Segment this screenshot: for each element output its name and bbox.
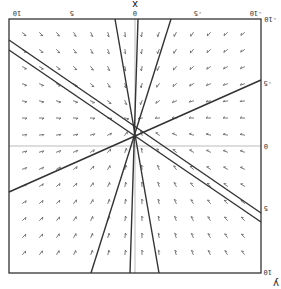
arrowhead-icon [206,150,208,151]
x-axis-title: x [132,0,138,10]
arrowhead-icon [109,250,110,252]
arrow-icon [73,101,78,102]
arrow-icon [125,199,126,204]
arrowhead-icon [126,165,127,167]
arrowhead-icon [173,166,175,167]
arrow-icon [56,217,59,221]
y-tick-label: 0 [264,142,268,150]
arrowhead-icon [126,148,127,150]
arrowhead-icon [189,133,191,134]
arrow-icon [141,100,143,105]
arrowhead-icon [206,133,208,134]
arrowhead-icon [24,85,26,86]
arrow-icon [22,32,26,35]
y-tick-labels: -10 -5 0 5 10 [264,15,277,276]
arrow-icon [174,66,177,70]
arrowhead-icon [140,102,141,104]
arrow-icon [157,66,159,71]
arrowhead-icon [127,119,129,120]
arrow-icon [108,199,110,204]
vector-field-plot: 10 5 0 -5 -10 x -10 -5 0 5 10 y [0,0,281,289]
arrow-icon [73,217,76,221]
arrow-icon [172,134,177,136]
arrow-icon [125,148,126,153]
arrow-icon [22,67,27,69]
arrowhead-icon [140,69,141,71]
arrow-icon [207,167,211,170]
x-tick-label: 5 [70,9,74,17]
arrow-icon [107,100,111,103]
arrowhead-icon [75,102,77,103]
arrowhead-icon [174,34,175,36]
arrow-icon [124,132,127,136]
arrowhead-icon [110,182,111,184]
arrow-icon [189,134,194,135]
x-tick-label: -10 [250,9,263,17]
arrowhead-icon [109,233,110,235]
arrow-icon [56,251,59,255]
arrowhead-icon [140,86,141,88]
arrowhead-icon [24,69,26,70]
arrow-icon [39,67,43,69]
x-tick-label: 10 [13,9,21,17]
arrowhead-icon [109,199,110,201]
arrowhead-icon [92,250,93,252]
arrow-icon [91,199,93,203]
arrow-icon [158,49,160,54]
y-tick-label: 10 [264,268,272,276]
arrow-icon [141,66,142,71]
arrowhead-icon [157,35,158,37]
arrowhead-icon [240,150,242,151]
arrow-icon [141,83,142,88]
arrow-icon [125,182,126,187]
arrowhead-icon [190,183,192,184]
arrow-icon [224,184,228,187]
arrow-icon [91,250,93,255]
arrow-icon [91,216,93,221]
arrow-icon [108,165,110,169]
arrowhead-icon [42,102,44,103]
arrow-icon [156,133,160,136]
arrow-icon [189,150,193,152]
y-tick-label: -5 [264,79,272,87]
arrowhead-icon [74,52,76,53]
arrow-icon [73,200,76,204]
arrowhead-icon [172,133,174,134]
arrow-icon [206,134,211,135]
arrowhead-icon [240,167,242,168]
arrow-icon [223,167,227,169]
x-tick-label: -5 [194,9,202,17]
arrow-icon [91,233,93,238]
arrow-icon [191,32,194,36]
arrowhead-icon [92,233,93,235]
arrowhead-icon [59,102,61,103]
arrow-icon [56,101,61,102]
arrow-icon [22,101,27,102]
arrow-icon [174,49,177,53]
arrowhead-icon [240,133,242,134]
arrow-icon [39,84,44,86]
arrow-icon [240,151,245,152]
arrowhead-icon [223,133,225,134]
arrowhead-icon [223,150,225,151]
arrow-icon [108,233,109,238]
arrow-icon [223,134,228,135]
arrowhead-icon [41,85,43,86]
arrowhead-icon [42,200,43,202]
arrow-icon [241,184,245,187]
arrowhead-icon [76,250,77,252]
arrowhead-icon [91,69,93,70]
arrow-icon [56,66,60,69]
arrow-icon [90,183,93,187]
y-axis-title: y [273,278,279,289]
arrowhead-icon [126,182,127,184]
arrow-icon [90,101,95,103]
arrowhead-icon [173,84,174,86]
arrowhead-icon [157,51,158,53]
arrow-icon [74,250,76,255]
arrow-icon [56,234,59,238]
y-tick-label: 5 [264,204,268,212]
arrow-icon [174,32,176,37]
arrow-icon [240,134,245,135]
arrowhead-icon [93,216,94,218]
